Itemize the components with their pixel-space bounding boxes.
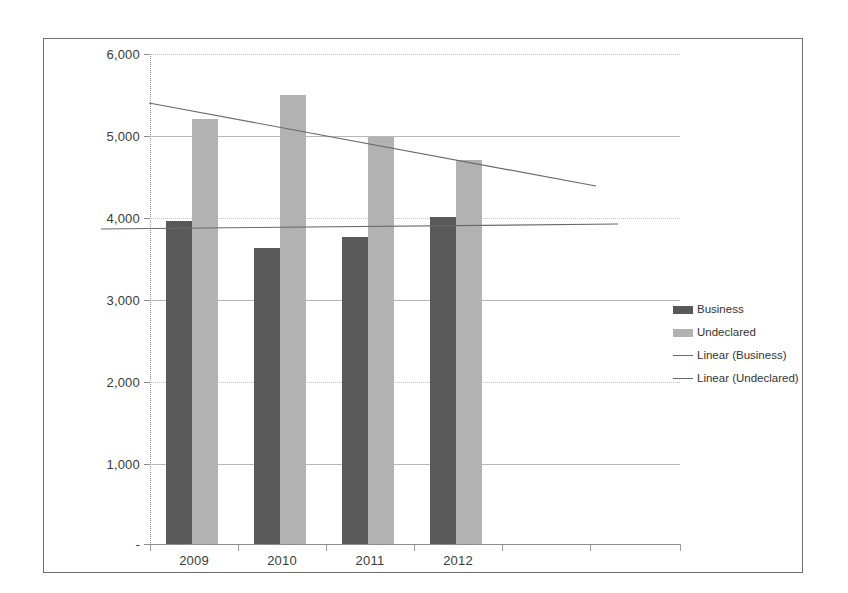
- legend-label: Linear (Undeclared): [697, 373, 799, 385]
- x-tick-mark: [680, 544, 681, 551]
- chart-frame: 6,000 5,000 4,000 3,000 2,000 1,000 -: [43, 38, 803, 573]
- bar-undeclared-2012[interactable]: [456, 160, 482, 544]
- gridline-4000: [150, 218, 680, 219]
- chart-legend: Business Undeclared Linear (Business) Li…: [673, 298, 798, 390]
- bar-undeclared-2010[interactable]: [280, 95, 306, 544]
- bar-undeclared-2009[interactable]: [192, 119, 218, 544]
- bar-business-2009[interactable]: [166, 221, 192, 544]
- x-tick-mark: [326, 544, 327, 551]
- bar-business-2011[interactable]: [342, 237, 368, 544]
- bar-business-2010[interactable]: [254, 248, 280, 544]
- x-tick-mark: [414, 544, 415, 551]
- gridline-1000: [150, 464, 680, 465]
- y-tick-label: 1,000: [106, 457, 140, 472]
- y-tick-label: 4,000: [106, 211, 140, 226]
- legend-swatch-icon: [673, 329, 693, 337]
- legend-item-linear-business[interactable]: Linear (Business): [673, 344, 798, 367]
- x-tick-mark: [238, 544, 239, 551]
- legend-item-business[interactable]: Business: [673, 298, 798, 321]
- x-tick-label-2012: 2012: [443, 553, 473, 568]
- legend-label: Business: [697, 304, 744, 316]
- gridline-6000: [150, 54, 680, 55]
- y-tick-label: 3,000: [106, 293, 140, 308]
- legend-item-linear-undeclared[interactable]: Linear (Undeclared): [673, 367, 798, 390]
- plot-area: [150, 54, 680, 544]
- x-tick-label-2009: 2009: [179, 553, 209, 568]
- legend-label: Linear (Business): [697, 350, 786, 362]
- y-tick-label: 6,000: [106, 47, 140, 62]
- x-tick-mark: [502, 544, 503, 551]
- gridline-3000: [150, 300, 680, 301]
- y-tick-label: 5,000: [106, 129, 140, 144]
- value-axis-labels: 6,000 5,000 4,000 3,000 2,000 1,000 -: [44, 39, 140, 572]
- legend-line-icon: [673, 378, 693, 379]
- legend-label: Undeclared: [697, 327, 756, 339]
- bar-undeclared-2011[interactable]: [368, 137, 394, 544]
- y-tick-label: 2,000: [106, 375, 140, 390]
- gridline-5000: [150, 136, 680, 137]
- bar-business-2012[interactable]: [430, 217, 456, 544]
- legend-line-icon: [673, 355, 693, 356]
- legend-item-undeclared[interactable]: Undeclared: [673, 321, 798, 344]
- legend-swatch-icon: [673, 306, 693, 314]
- x-tick-mark: [150, 544, 151, 551]
- x-tick-mark: [590, 544, 591, 551]
- gridline-2000: [150, 382, 680, 383]
- y-tick-label: -: [135, 537, 140, 552]
- category-axis-line: [150, 544, 681, 545]
- x-tick-label-2011: 2011: [356, 553, 385, 568]
- x-tick-label-2010: 2010: [267, 553, 297, 568]
